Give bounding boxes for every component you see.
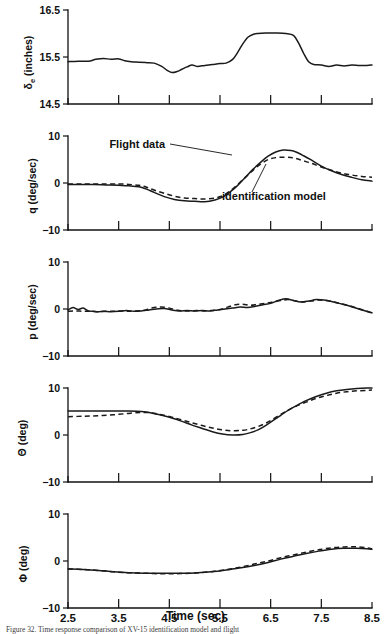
- figure-caption: Figure 32. Time response comparison of X…: [6, 625, 391, 634]
- series-identification-model: [68, 157, 372, 199]
- y-tick-label: 10: [48, 130, 60, 142]
- x-axis-title: Time (sec): [0, 609, 391, 623]
- leader-line-flight-data: [170, 144, 232, 155]
- panel-elevator-position: δe (inches) 14.515.516.5: [0, 0, 391, 120]
- y-axis-label-p: p (deg/sec): [4, 258, 30, 366]
- y-tick-label: −10: [42, 476, 60, 488]
- series-flight-data: [68, 150, 372, 202]
- y-axis-label-phi: Φ (deg): [4, 510, 30, 618]
- y-tick-label: 14.5: [40, 98, 61, 110]
- y-tick-label: 16.5: [40, 4, 61, 16]
- series-flight-data: [68, 388, 372, 435]
- y-axis-label-delta-e: δe (inches): [4, 6, 30, 114]
- y-tick-label: −10: [42, 224, 60, 236]
- series-flight-data: [68, 33, 372, 73]
- y-tick-label: −10: [42, 350, 60, 362]
- panel-pitch-rate: q (deg/sec) −10010Flight dataidentificat…: [0, 126, 391, 246]
- y-axis-label-theta: Θ (deg): [4, 384, 30, 492]
- annotation-flight-data: Flight data: [109, 138, 165, 150]
- panel-pitch-attitude: Θ (deg) −10010: [0, 378, 391, 498]
- y-tick-label: 10: [48, 256, 60, 268]
- y-tick-label: 10: [48, 508, 60, 520]
- series-identification-model: [68, 547, 372, 574]
- series-flight-data: [68, 548, 372, 573]
- y-axis-label-q: q (deg/sec): [4, 132, 30, 240]
- panel-roll-rate: p (deg/sec) −10010: [0, 252, 391, 372]
- series-identification-model: [68, 300, 372, 313]
- y-tick-label: 10: [48, 382, 60, 394]
- annotation-identification-model: identification model: [222, 190, 326, 202]
- flight-data-comparison-figure: δe (inches) 14.515.516.5 q (deg/sec) −10…: [0, 0, 391, 634]
